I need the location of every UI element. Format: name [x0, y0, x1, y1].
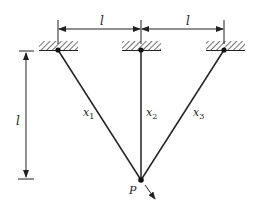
load-arrow [145, 185, 155, 199]
dim-label-left: l [100, 14, 104, 28]
bar-3-label: x3 [193, 106, 204, 121]
pin-middle [138, 47, 143, 52]
bar-1-label: x1 [83, 106, 94, 121]
load-label: P [128, 184, 137, 197]
truss-diagram: l l x1 x2 x3 l P [0, 0, 259, 216]
load-node [138, 177, 144, 183]
vertical-dimension: l [16, 51, 34, 179]
dim-label-right: l [186, 14, 190, 28]
pin-right [221, 47, 226, 52]
pin-left [55, 47, 60, 52]
bar-1 [58, 50, 141, 180]
bar-2-label: x2 [146, 106, 157, 121]
top-dimension: l l [58, 14, 224, 44]
dim-label-vertical: l [16, 114, 20, 128]
